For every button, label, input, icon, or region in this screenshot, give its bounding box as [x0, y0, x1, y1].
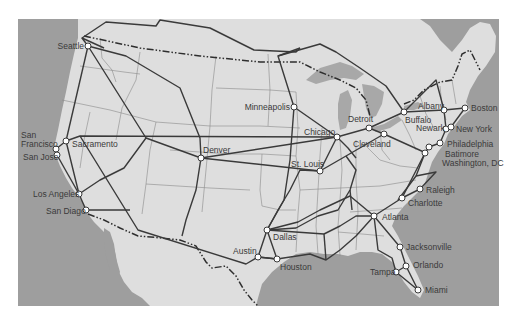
city-label: Philadelphia: [447, 139, 494, 149]
city-node-icon[interactable]: [415, 287, 421, 293]
city-label: Seattle: [58, 41, 85, 51]
city-label: Boston: [471, 103, 498, 113]
city-node-icon[interactable]: [422, 150, 428, 156]
city-node-icon[interactable]: [397, 244, 403, 250]
city-label: Orlando: [413, 260, 444, 270]
city-label: Miami: [425, 285, 448, 295]
city-label: Raleigh: [426, 185, 455, 195]
city-node-icon[interactable]: [403, 263, 409, 269]
city-label: St. Louis: [291, 159, 324, 169]
city-san-jose[interactable]: San Jose: [23, 152, 60, 162]
city-node-icon[interactable]: [264, 227, 270, 233]
city-label: Sacramento: [72, 139, 118, 149]
city-label: Los Angeles: [33, 189, 79, 199]
city-minneapolis[interactable]: Minneapolis: [245, 102, 297, 112]
city-label: Denver: [203, 145, 231, 155]
city-label: Atlanta: [382, 212, 409, 222]
city-node-icon[interactable]: [63, 138, 69, 144]
city-node-icon[interactable]: [198, 155, 204, 161]
city-label: Chicago: [304, 127, 335, 137]
city-label: Washington, DC: [442, 158, 504, 168]
city-los-angeles[interactable]: Los Angeles: [33, 189, 82, 199]
city-node-icon[interactable]: [366, 125, 372, 131]
city-label: San Diago: [46, 206, 86, 216]
rail-network-map[interactable]: SeattleSanFranciscoSan JoseSacramentoLos…: [0, 0, 515, 319]
city-node-icon[interactable]: [291, 104, 297, 110]
city-node-icon[interactable]: [437, 140, 443, 146]
city-label: Tampa: [370, 267, 396, 277]
city-node-icon[interactable]: [371, 213, 377, 219]
city-node-icon[interactable]: [417, 186, 423, 192]
city-label: Cleveland: [353, 139, 391, 149]
city-label: Houston: [280, 262, 312, 272]
city-node-icon[interactable]: [381, 131, 387, 137]
city-node-icon[interactable]: [85, 43, 91, 49]
city-tampa[interactable]: Tampa: [370, 267, 399, 277]
city-node-icon[interactable]: [448, 124, 454, 130]
city-label: Detroit: [348, 114, 374, 124]
city-label: Austin: [233, 246, 257, 256]
city-label: Charlotte: [408, 198, 443, 208]
city-node-icon[interactable]: [462, 105, 468, 111]
city-label: Minneapolis: [245, 102, 290, 112]
city-sacramento[interactable]: Sacramento: [63, 138, 118, 149]
city-label: New York: [456, 124, 493, 134]
city-jacksonville[interactable]: Jacksonville: [397, 242, 452, 252]
city-label: Albany: [418, 101, 445, 111]
city-label: Newark: [416, 123, 446, 133]
city-node-icon[interactable]: [399, 195, 405, 201]
city-label: Jacksonville: [406, 242, 452, 252]
city-san-diago[interactable]: San Diago: [46, 206, 89, 216]
city-newark[interactable]: Newark: [416, 123, 449, 133]
city-node-icon[interactable]: [426, 144, 432, 150]
city-label: San Jose: [23, 152, 59, 162]
city-label: Dallas: [273, 232, 297, 242]
